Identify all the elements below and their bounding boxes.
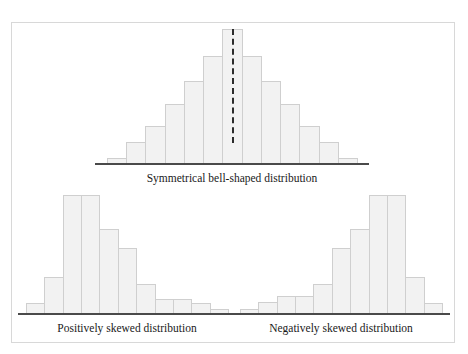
plot-area-symmetrical — [107, 29, 357, 165]
bar — [350, 229, 369, 315]
bar — [118, 248, 137, 315]
bar — [203, 56, 223, 165]
bar — [99, 229, 118, 315]
median-dashed-line — [232, 29, 234, 143]
baseline-axis-negatively-skewed — [232, 313, 450, 315]
bar — [332, 248, 351, 315]
chart-panel-symmetrical: Symmetrical bell-shaped distribution — [107, 29, 357, 187]
figure-frame: Symmetrical bell-shaped distribution Pos… — [11, 22, 455, 343]
bar — [280, 104, 300, 165]
chart-panel-negatively-skewed: Negatively skewed distribution — [240, 195, 442, 337]
bar — [44, 277, 63, 315]
bar — [145, 126, 165, 165]
bar — [299, 126, 319, 165]
baseline-axis-positively-skewed — [18, 313, 236, 315]
bar — [313, 284, 332, 315]
plot-area-negatively-skewed — [240, 195, 442, 315]
bar — [319, 142, 339, 165]
bar — [387, 195, 406, 315]
chart-panel-positively-skewed: Positively skewed distribution — [26, 195, 228, 337]
bar — [242, 56, 262, 165]
bar — [165, 104, 185, 165]
plot-area-positively-skewed — [26, 195, 228, 315]
bar — [261, 81, 281, 165]
bar-series-negatively-skewed — [240, 195, 442, 315]
baseline-axis-symmetrical — [95, 163, 369, 165]
bar — [126, 142, 146, 165]
bar — [81, 195, 100, 315]
bar — [184, 81, 204, 165]
bar — [405, 277, 424, 315]
caption-symmetrical: Symmetrical bell-shaped distribution — [77, 171, 387, 186]
caption-negatively-skewed: Negatively skewed distribution — [210, 321, 468, 336]
bar — [369, 195, 388, 315]
bar-series-positively-skewed — [26, 195, 228, 315]
bar — [63, 195, 82, 315]
bar — [136, 284, 155, 315]
